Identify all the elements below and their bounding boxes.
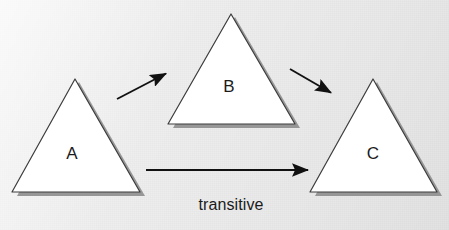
triangle-a-group — [12, 79, 145, 196]
edge-label-transitive: transitive — [198, 197, 263, 213]
arrow-b-to-c — [290, 69, 331, 93]
diagram-canvas: A B C transitive — [0, 0, 449, 230]
triangle-a-shape[interactable] — [12, 79, 140, 192]
triangle-c-group — [310, 79, 442, 196]
node-label-b: B — [223, 78, 235, 95]
triangle-b-shape[interactable] — [168, 14, 295, 124]
triangle-b-group — [168, 14, 300, 128]
node-label-a: A — [66, 145, 78, 162]
node-label-c: C — [367, 145, 379, 162]
triangle-c-shape[interactable] — [310, 79, 437, 192]
arrow-a-to-b — [117, 74, 166, 100]
